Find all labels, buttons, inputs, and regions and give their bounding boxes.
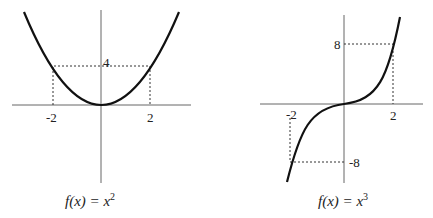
tick-label-neg2: -2 bbox=[46, 111, 57, 124]
tick-label-neg8: -8 bbox=[349, 156, 360, 169]
dashed-guides-negative bbox=[290, 118, 344, 162]
function-graphs bbox=[0, 0, 433, 218]
tick-label-8: 8 bbox=[334, 38, 341, 51]
tick-label-2: 2 bbox=[147, 111, 154, 124]
tick-label-4: 4 bbox=[103, 56, 110, 69]
tick-label-2: 2 bbox=[390, 109, 397, 122]
graph-x-cubed bbox=[260, 15, 423, 183]
tick-label-neg2: -2 bbox=[286, 108, 297, 121]
graph-x-squared bbox=[12, 10, 191, 183]
caption-x-cubed: f(x) = x3 bbox=[318, 192, 368, 209]
caption-x-squared: f(x) = x2 bbox=[65, 192, 115, 209]
